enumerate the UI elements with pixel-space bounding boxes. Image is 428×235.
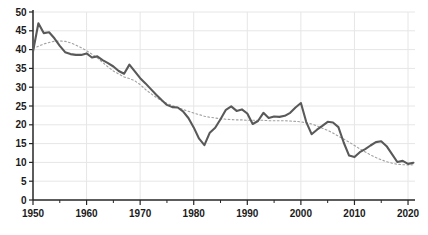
x-tick-label: 2010 — [343, 208, 366, 219]
x-tick-label: 2000 — [290, 208, 313, 219]
y-tick-label: 20 — [15, 119, 27, 130]
x-tick-label: 2020 — [397, 208, 420, 219]
y-tick-label: 25 — [15, 101, 27, 112]
y-tick-label: 45 — [15, 25, 27, 36]
time-series-line-chart: 0510152025303540455019501960197019801990… — [0, 0, 428, 235]
y-tick-label: 35 — [15, 63, 27, 74]
y-tick-label: 30 — [15, 82, 27, 93]
y-tick-label: 0 — [21, 195, 27, 206]
y-tick-label: 10 — [15, 157, 27, 168]
x-tick-label: 1990 — [236, 208, 259, 219]
y-tick-label: 50 — [15, 7, 27, 18]
y-tick-label: 15 — [15, 138, 27, 149]
x-tick-label: 1980 — [183, 208, 206, 219]
y-tick-label: 5 — [21, 176, 27, 187]
y-tick-label: 40 — [15, 44, 27, 55]
x-tick-label: 1950 — [22, 208, 45, 219]
x-tick-label: 1960 — [75, 208, 98, 219]
x-tick-label: 1970 — [129, 208, 152, 219]
line-chart-figure: 0510152025303540455019501960197019801990… — [0, 0, 428, 235]
